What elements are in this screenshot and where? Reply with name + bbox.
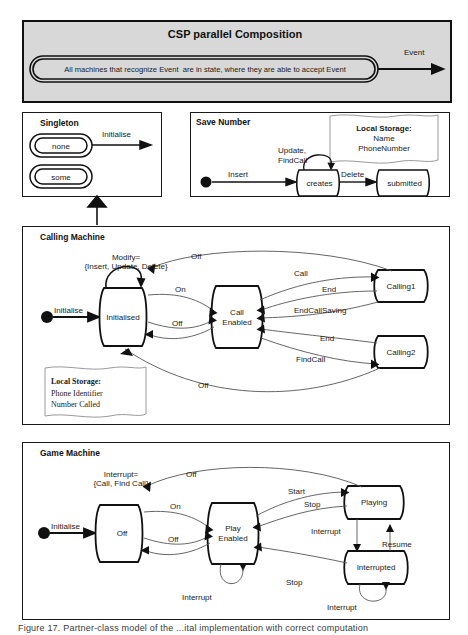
game-machine-state-off: Off (100, 529, 144, 538)
game-machine-transition-resume: Resume (382, 540, 412, 549)
figure-canvas: CSP parallel Composition All machines th… (0, 0, 468, 635)
game-machine-state-playing: Playing (348, 498, 400, 507)
game-machine-transition-interrupt-3: Interrupt (327, 603, 357, 612)
game-machine-transition-stop-top: Stop (304, 500, 320, 509)
game-machine-transition-start: Start (288, 487, 305, 496)
game-machine-transition-interrupt-2: Interrupt (182, 593, 212, 602)
game-machine-transition-off-top: Off (186, 470, 197, 479)
game-machine-transition-on: On (170, 502, 181, 511)
game-machine-transition-stop-bottom: Stop (286, 578, 302, 587)
game-machine-transition-initialise: Initialise (51, 522, 80, 531)
game-machine-macro-label-line-1: Interrupt= (62, 470, 180, 479)
game-machine-macro-label-line-2: {Call, Find Call} (58, 479, 184, 488)
game-machine-state-interrupted: Interrupted (348, 563, 404, 572)
game-machine-transition-off-mid: Off (168, 535, 179, 544)
game-machine-transition-interrupt-1: Interrupt (311, 527, 341, 536)
game-machine-state-play-enabled-line-1: Play (208, 524, 258, 533)
game-machine-state-play-enabled-line-2: Enabled (208, 534, 258, 543)
figure-caption: Figure 17. Partner-class model of the ..… (18, 623, 368, 633)
